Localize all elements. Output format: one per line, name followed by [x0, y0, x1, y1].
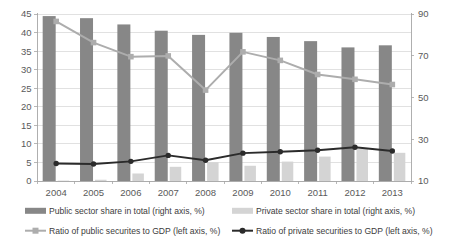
left-axis-tick-label: 5	[26, 157, 31, 168]
data-point-marker	[315, 147, 320, 152]
legend-item[interactable]: Ratio of public securites to GDP (left a…	[25, 226, 220, 236]
x-axis-tick-label: 2008	[195, 187, 216, 198]
public-sector-bar	[43, 16, 56, 181]
x-axis-tick-label: 2009	[232, 187, 253, 198]
data-point-marker	[203, 158, 208, 163]
public-sector-bar	[117, 24, 130, 181]
left-axis-tick-label: 30	[21, 64, 32, 75]
legend-label: Ratio of public securites to GDP (left a…	[49, 226, 220, 236]
legend-label: Public sector share in total (right axis…	[49, 206, 205, 216]
data-point-marker	[166, 153, 171, 158]
data-point-marker	[278, 149, 283, 154]
left-axis-tick-label: 35	[21, 46, 32, 57]
data-point-marker	[128, 54, 134, 60]
public-sector-bar	[379, 45, 392, 181]
x-axis-tick-label: 2012	[344, 187, 365, 198]
public-sector-bar	[304, 41, 317, 181]
data-point-marker	[128, 159, 133, 164]
legend-dot-marker-icon	[240, 228, 246, 234]
x-axis-tick-label: 2004	[46, 187, 67, 198]
left-axis-tick-label: 15	[21, 120, 32, 131]
legend-label: Private sector share in total (right axi…	[256, 206, 415, 216]
left-axis-tick-label: 0	[26, 175, 31, 186]
private-sector-bar	[282, 162, 294, 181]
x-axis-tick-label: 2007	[158, 187, 179, 198]
legend-label: Ratio of private securities to GDP (left…	[256, 226, 433, 236]
data-point-marker	[352, 145, 357, 150]
data-point-marker	[53, 161, 58, 166]
x-axis-tick-label: 2006	[120, 187, 141, 198]
private-sector-bar	[132, 173, 144, 181]
legend-swatch-icon	[25, 208, 46, 214]
x-axis-tick-label: 2010	[270, 187, 291, 198]
legend-square-marker-icon	[33, 228, 39, 234]
data-point-marker	[91, 161, 96, 166]
data-point-marker	[390, 82, 396, 88]
private-sector-bar	[394, 153, 406, 181]
x-axis-tick-label: 2005	[83, 187, 104, 198]
data-point-marker	[240, 150, 245, 155]
data-point-marker	[352, 77, 358, 83]
x-axis-tick-label: 2011	[307, 187, 327, 198]
private-sector-bar	[356, 149, 368, 181]
right-axis-tick-label: 90	[418, 8, 429, 19]
left-axis-tick-label: 20	[21, 101, 32, 112]
legend-item[interactable]: Private sector share in total (right axi…	[232, 206, 415, 216]
left-axis-tick-label: 10	[21, 138, 32, 149]
data-point-marker	[203, 87, 209, 93]
data-point-marker	[165, 53, 171, 59]
right-axis-tick-label: 70	[418, 50, 429, 61]
data-point-marker	[315, 72, 321, 78]
data-point-marker	[390, 148, 395, 153]
legend-item[interactable]: Public sector share in total (right axis…	[25, 206, 205, 216]
data-point-marker	[277, 58, 283, 64]
private-sector-bar	[207, 162, 219, 181]
left-axis-tick-label: 25	[21, 83, 32, 94]
data-point-marker	[240, 49, 246, 55]
public-sector-bar	[341, 47, 354, 181]
right-axis-tick-label: 30	[418, 134, 429, 145]
chart-container: 051015202530354045 1030507090 2004200520…	[0, 0, 450, 252]
private-sector-bar	[244, 166, 256, 181]
left-axis-tick-label: 45	[21, 8, 32, 19]
left-axis-tick-label: 40	[21, 27, 32, 38]
securities-share-chart: 051015202530354045 1030507090 2004200520…	[0, 0, 450, 252]
private-sector-bar	[170, 167, 182, 181]
data-point-marker	[53, 19, 59, 25]
legend-item[interactable]: Ratio of private securities to GDP (left…	[232, 226, 433, 236]
right-axis-tick-label: 50	[418, 92, 429, 103]
data-point-marker	[91, 40, 97, 46]
private-sector-bar	[319, 157, 331, 181]
x-axis-tick-label: 2013	[382, 187, 403, 198]
legend-swatch-icon	[232, 208, 253, 214]
right-axis-tick-label: 10	[418, 175, 429, 186]
